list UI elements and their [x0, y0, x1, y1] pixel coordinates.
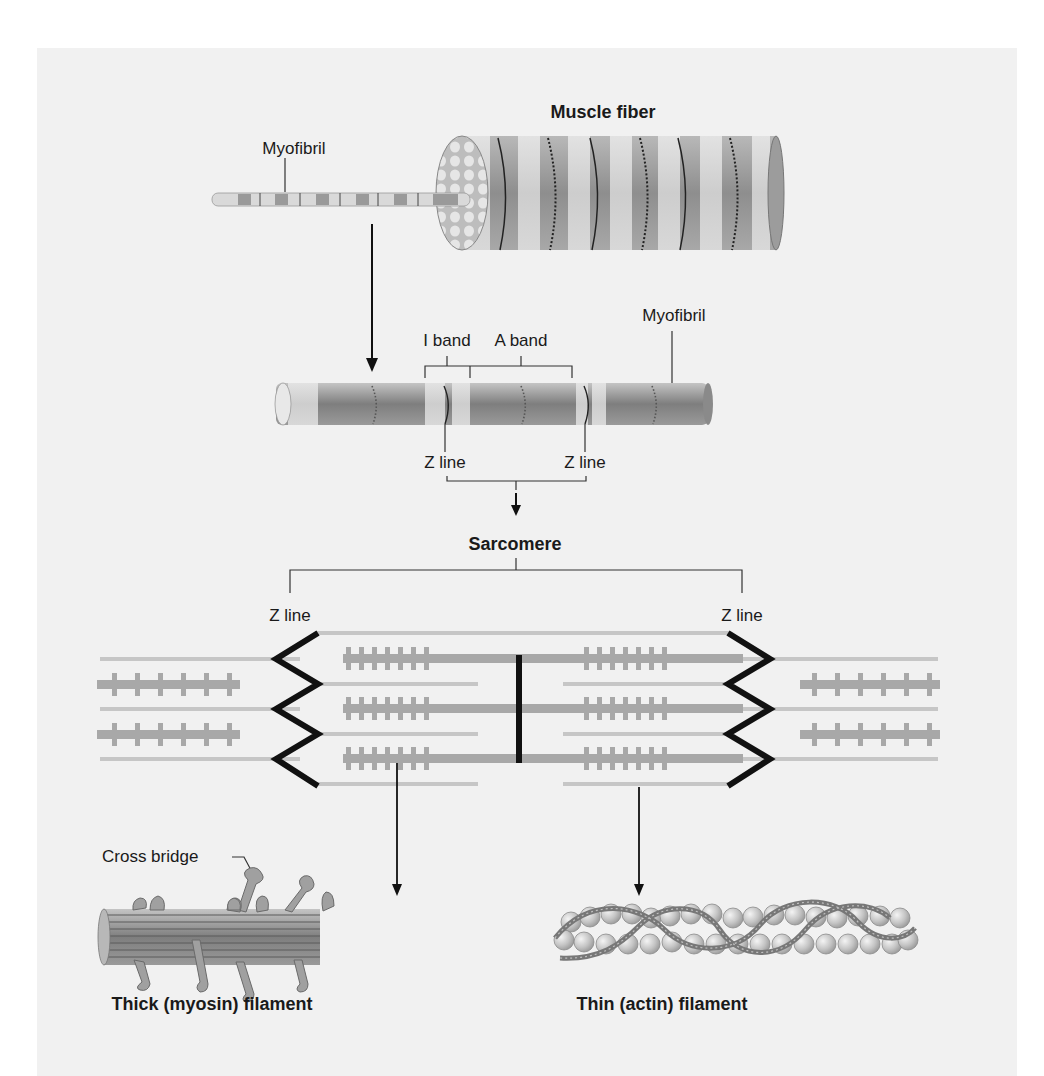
z-line-label-right: Z line: [564, 453, 606, 472]
sarcomere-title: Sarcomere: [468, 534, 561, 554]
sarcomere-z-line-label-left: Z line: [269, 606, 311, 625]
i-band-label: I band: [423, 331, 470, 350]
myofibril-label-right: Myofibril: [642, 306, 705, 325]
myofibril-label-top: Myofibril: [262, 139, 325, 158]
cross-bridge-label: Cross bridge: [102, 847, 198, 866]
thin-actin-filament: Thin (actin) filament: [554, 902, 918, 1014]
sarcomere-z-line-label-right: Z line: [721, 606, 763, 625]
arrow-down-icon: [634, 787, 644, 896]
myofibril-detail: Myofibril I band A band: [275, 306, 713, 490]
muscle-fiber-title: Muscle fiber: [550, 102, 655, 122]
m-line: [516, 655, 522, 763]
muscle-structure-diagram: Muscle fiber Myofibril: [0, 0, 1044, 1076]
arrow-down-icon: [366, 224, 378, 372]
band-brackets: [425, 356, 572, 378]
thin-filament-caption: Thin (actin) filament: [577, 994, 748, 1014]
sarcomere: Sarcomere Z line Z line: [97, 534, 940, 896]
muscle-fiber: Muscle fiber: [436, 102, 784, 250]
thick-filament-caption: Thick (myosin) filament: [111, 994, 312, 1014]
arrow-down-icon: [511, 493, 521, 516]
z-line-label-left: Z line: [424, 453, 466, 472]
thick-myosin-filament: Cross bridge Thick: [98, 847, 334, 1014]
a-band-label: A band: [495, 331, 548, 350]
myofibril-small: Myofibril: [212, 139, 470, 206]
